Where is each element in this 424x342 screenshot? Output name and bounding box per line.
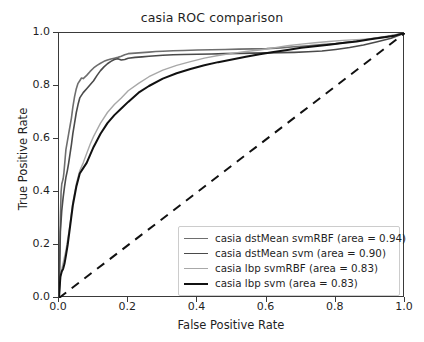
x-tick-label: 1.0 xyxy=(384,300,424,313)
x-tick-label: 0.8 xyxy=(315,300,355,313)
legend-item-label: casia dstMean svmRBF (area = 0.94) xyxy=(215,231,406,246)
x-axis-label: False Positive Rate xyxy=(58,318,404,332)
x-tick-label: 0.6 xyxy=(246,300,286,313)
x-tick-label: 0.2 xyxy=(107,300,147,313)
legend-color-swatch xyxy=(184,238,208,239)
roc-chart-figure: casia ROC comparison 0.00.20.40.60.81.0 … xyxy=(0,0,424,342)
x-tick-label: 0.0 xyxy=(38,300,78,313)
y-axis-label: True Positive Rate xyxy=(16,79,30,239)
x-tick-label: 0.4 xyxy=(176,300,216,313)
legend-item[interactable]: casia dstMean svmRBF (area = 0.94) xyxy=(184,231,393,246)
legend-item[interactable]: casia lbp svmRBF (area = 0.83) xyxy=(184,261,393,276)
legend-item[interactable]: casia dstMean svm (area = 0.90) xyxy=(184,246,393,261)
legend-color-swatch xyxy=(184,253,208,254)
legend-item-label: casia dstMean svm (area = 0.90) xyxy=(215,246,386,261)
legend-item-label: casia lbp svmRBF (area = 0.83) xyxy=(215,261,378,276)
legend-item-label: casia lbp svm (area = 0.83) xyxy=(215,276,358,291)
legend-color-swatch xyxy=(184,283,208,285)
chart-legend: casia dstMean svmRBF (area = 0.94)casia … xyxy=(178,226,400,296)
legend-color-swatch xyxy=(184,268,208,269)
legend-item[interactable]: casia lbp svm (area = 0.83) xyxy=(184,276,393,291)
